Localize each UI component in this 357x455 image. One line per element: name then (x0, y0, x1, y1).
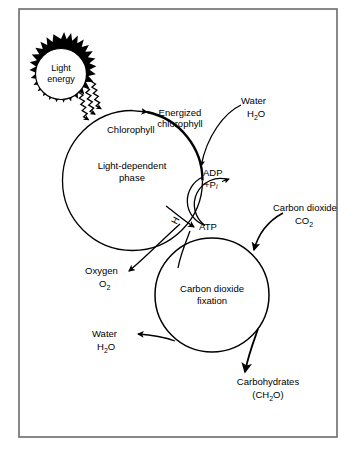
carbohydrates-formula-suffix: O) (273, 389, 284, 400)
water-input-formula: H2O (247, 108, 265, 121)
carbon-dioxide-formula-prefix: CO (295, 215, 309, 226)
oxygen-output-arrow (129, 224, 180, 271)
light-ray-icon-1 (78, 92, 89, 120)
energized-chlorophyll-line2: chlorophyll (157, 118, 202, 129)
water-input-formula-suffix: O (258, 108, 265, 119)
photosynthesis-diagram: Light energy Chlorophyll Energized chlor… (0, 0, 357, 455)
light-dependent-phase-line1: Light-dependent (98, 160, 167, 171)
light-ray-icon-3 (91, 81, 102, 109)
atp-label: ATP (199, 221, 217, 232)
carbohydrates-output-formula: (CH2O) (252, 389, 283, 402)
atp-to-fixation-link (178, 231, 190, 268)
carbon-dioxide-formula-sub: 2 (309, 221, 313, 228)
water-output-formula: H2O (97, 341, 115, 354)
light-dependent-phase-line2: phase (119, 172, 145, 183)
adp-phosphate-prefix: +P (204, 179, 216, 190)
oxygen-output-formula-prefix: O (99, 278, 106, 289)
carbon-dioxide-input-arrow (254, 213, 283, 250)
carbon-dioxide-input-formula: CO2 (295, 215, 313, 228)
carbon-fixation-line2: fixation (197, 295, 227, 306)
carbon-dioxide-input-name: Carbon dioxide (273, 202, 337, 213)
oxygen-output-formula: O2 (99, 278, 110, 291)
water-output-arrow (138, 334, 175, 341)
light-energy-line2: energy (47, 74, 75, 84)
adp-phosphate-subscript: i (216, 183, 218, 190)
adp-phosphate-label: +Pi (204, 179, 218, 190)
light-cycle-arrowhead (132, 111, 147, 112)
energized-chlorophyll-line1: Energized (159, 107, 202, 118)
oxygen-output-formula-sub: 2 (106, 284, 110, 291)
chlorophyll-label: Chlorophyll (107, 124, 155, 135)
adp-label: ADP (203, 167, 223, 178)
light-ray-icon-2 (85, 87, 96, 115)
diagram-canvas: Light energy Chlorophyll Energized chlor… (0, 0, 357, 455)
oxygen-output-name: Oxygen (85, 265, 118, 276)
water-output-formula-suffix: O (108, 341, 115, 352)
water-input-name: Water (241, 95, 266, 106)
carbohydrates-output-name: Carbohydrates (237, 376, 300, 387)
water-output-name: Water (92, 328, 117, 339)
light-energy-line1: Light (51, 63, 71, 73)
carbon-fixation-line1: Carbon dioxide (180, 283, 244, 294)
carbohydrates-formula-prefix: (CH (252, 389, 269, 400)
water-input-arrow (201, 105, 241, 166)
